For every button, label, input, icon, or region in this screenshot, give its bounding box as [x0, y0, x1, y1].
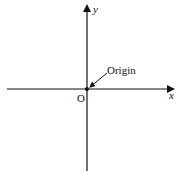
- x-axis-label: x: [168, 89, 174, 101]
- origin-point: [85, 87, 89, 91]
- y-axis-label: y: [92, 3, 98, 15]
- origin-callout-arrow: [90, 73, 107, 87]
- coordinate-axes-diagram: y x O Origin: [0, 0, 181, 175]
- origin-callout-label: Origin: [107, 64, 136, 76]
- origin-point-label: O: [77, 92, 85, 104]
